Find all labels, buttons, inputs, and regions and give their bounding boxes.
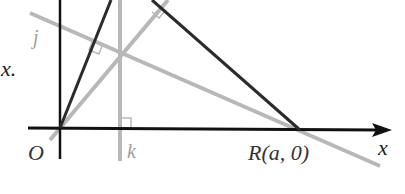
altitude-line-j bbox=[30, 13, 380, 166]
label-point-r: R(a, 0) bbox=[247, 140, 309, 165]
x-axis bbox=[28, 128, 380, 130]
label-x-axis: x bbox=[377, 135, 388, 160]
altitude-line-from-origin bbox=[50, 0, 168, 140]
triangle-side-qr bbox=[152, 0, 300, 130]
orthocenter-diagram: j x. O k R(a, 0) x bbox=[0, 0, 405, 194]
triangle-side-oq bbox=[60, 0, 111, 128]
label-line-k: k bbox=[127, 140, 137, 162]
label-origin: O bbox=[28, 140, 44, 165]
label-side-text: x. bbox=[0, 56, 16, 81]
label-line-j: j bbox=[30, 26, 39, 49]
